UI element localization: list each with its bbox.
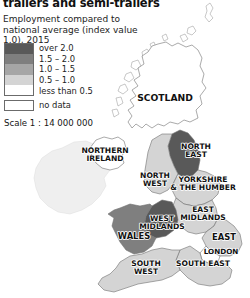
map-label-east: EAST [212, 232, 236, 242]
map-label-east-midlands-line2: MIDLANDS [180, 213, 226, 222]
scale-label: Scale 1 : 14 000 000 [4, 118, 93, 128]
map-figure: SCOTLAND NORTHERN IRELAND NORTH EAST NOR… [0, 0, 250, 298]
legend-item: less than 0.5 [4, 85, 93, 96]
legend: over 2.0 1.5 – 2.0 1.0 – 1.5 0.5 – 1.0 l… [4, 43, 93, 96]
legend-item: 1.5 – 2.0 [4, 54, 93, 65]
legend-label: 0.5 – 1.0 [39, 75, 75, 85]
map-label-wales: WALES [118, 231, 150, 241]
map-label-northern-ireland-line2: IRELAND [86, 154, 123, 163]
map-label-south-west-line2: WEST [134, 267, 159, 276]
region-scotland [128, 42, 206, 128]
legend-item: 0.5 – 1.0 [4, 75, 93, 86]
legend-label: less than 0.5 [39, 86, 93, 96]
subtitle: Employment compared to national average … [3, 14, 143, 46]
map-label-scotland: SCOTLAND [137, 92, 193, 103]
legend-label: 1.0 – 1.5 [39, 64, 75, 74]
legend-item-no-data: no data [4, 100, 71, 111]
legend-swatch-no-data [4, 100, 34, 111]
legend-swatch [4, 85, 34, 96]
map-label-north-east-line2: EAST [185, 150, 208, 159]
legend-label-no-data: no data [39, 100, 71, 110]
map-label-west-midlands-line2: MIDLANDS [139, 222, 185, 231]
legend-label: over 2.0 [39, 43, 74, 53]
legend-swatch [4, 64, 34, 75]
legend-item: 1.0 – 1.5 [4, 64, 93, 75]
map-label-yorkshire-line2: & THE HUMBER [170, 183, 236, 192]
legend-item: over 2.0 [4, 43, 93, 54]
legend-swatch [4, 75, 34, 86]
legend-swatch [4, 43, 34, 54]
page-title: trailers and semi-trailers [3, 0, 193, 9]
legend-label: 1.5 – 2.0 [39, 54, 75, 64]
legend-swatch [4, 54, 34, 65]
map-label-south-east: SOUTH EAST [176, 259, 231, 268]
map-label-north-west-line2: WEST [143, 179, 168, 188]
map-label-london: LONDON [204, 247, 239, 256]
